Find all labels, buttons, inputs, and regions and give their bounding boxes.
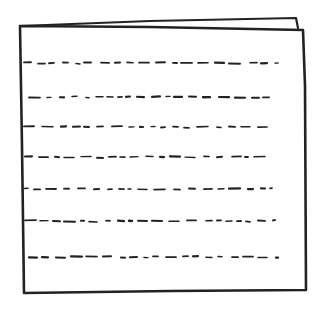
document-sketch <box>0 0 325 315</box>
front-sheet-edge <box>20 26 306 293</box>
front-sheet-outline <box>20 26 306 293</box>
